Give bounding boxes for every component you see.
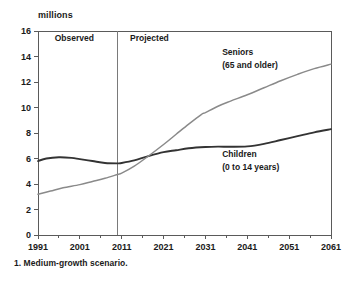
x-axis-ticks: 19912001201120212031204120512061 <box>28 235 341 252</box>
x-tick-label: 2061 <box>321 242 341 252</box>
y-tick-label: 10 <box>21 103 31 113</box>
y-tick-label: 6 <box>26 154 31 164</box>
y-tick-label: 8 <box>26 128 31 138</box>
chart-annotation-label: (0 to 14 years) <box>222 162 279 172</box>
chart-annotation-label: Children <box>222 149 256 159</box>
chart-annotation-label: Seniors <box>222 47 253 57</box>
y-tick-label: 0 <box>26 230 31 240</box>
footnote: 1. Medium-growth scenario. <box>14 258 128 268</box>
series-lines <box>38 64 331 194</box>
x-tick-label: 2041 <box>237 242 257 252</box>
y-axis-ticks: 0246810121416 <box>21 26 38 240</box>
plot-frame <box>38 31 331 235</box>
y-tick-label: 14 <box>21 52 31 62</box>
plot-border <box>38 31 331 235</box>
x-tick-label: 1991 <box>28 242 48 252</box>
chart-svg: 0246810121416 19912001201120212031204120… <box>0 0 353 281</box>
x-tick-label: 2021 <box>154 242 174 252</box>
chart-annotation-label: Projected <box>130 33 169 43</box>
y-tick-label: 12 <box>21 77 31 87</box>
x-tick-label: 2031 <box>195 242 215 252</box>
seniors-series-line <box>38 64 331 194</box>
chart-annotation-label: Observed <box>55 33 94 43</box>
y-tick-label: 16 <box>21 26 31 36</box>
chart-annotation-label: (65 and older) <box>222 60 278 70</box>
children-series-line <box>38 129 331 163</box>
population-projection-chart: millions 0246810121416 19912001201120212… <box>0 0 353 281</box>
x-tick-label: 2051 <box>279 242 299 252</box>
y-tick-label: 4 <box>26 179 31 189</box>
y-tick-label: 2 <box>26 205 31 215</box>
x-tick-label: 2001 <box>70 242 90 252</box>
x-tick-label: 2011 <box>112 242 132 252</box>
